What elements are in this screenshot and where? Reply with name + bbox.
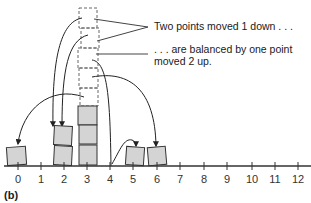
box-pos-2-bottom <box>53 146 72 166</box>
dashed-box-2 <box>81 28 99 48</box>
tick-label-6: 6 <box>154 173 160 185</box>
dashed-box-4 <box>79 68 98 88</box>
box-pos-3-top <box>78 106 97 125</box>
tick-label-3: 3 <box>84 173 90 185</box>
box-pos-3-mid <box>79 125 97 144</box>
arrow-to-0 <box>18 94 84 144</box>
tick-label-2: 2 <box>61 173 67 185</box>
tick-label-7: 7 <box>177 173 183 185</box>
balance-diagram: Two points moved 1 down . . . . . . are … <box>0 0 311 203</box>
arrow-box4-to-6 <box>92 76 156 146</box>
tick-label-0: 0 <box>15 173 21 185</box>
number-line: 0 1 2 3 4 5 6 7 8 9 10 11 12 <box>4 162 311 185</box>
tick-label-12: 12 <box>292 173 304 185</box>
box-pos-5 <box>125 146 144 165</box>
tick-label-10: 10 <box>246 173 258 185</box>
tick-label-4: 4 <box>107 173 113 185</box>
dashed-original-boxes <box>78 8 99 106</box>
tick-label-1: 1 <box>38 173 44 185</box>
annotation-two-points: Two points moved 1 down . . . <box>154 20 293 32</box>
panel-label: (b) <box>4 189 18 201</box>
leader-lines <box>94 19 148 54</box>
dashed-box-3 <box>78 48 98 68</box>
tick-label-5: 5 <box>130 173 136 185</box>
box-pos-3-bottom <box>79 145 97 165</box>
annotation-moved-up: moved 2 up. <box>154 55 212 67</box>
tick-label-8: 8 <box>201 173 207 185</box>
axis-tick-labels: 0 1 2 3 4 5 6 7 8 9 10 11 12 <box>15 173 304 185</box>
tick-label-11: 11 <box>269 173 280 185</box>
tick-label-9: 9 <box>224 173 230 185</box>
annotation-balanced: . . . are balanced by one point <box>154 43 292 55</box>
box-pos-0 <box>6 146 26 165</box>
final-boxes <box>6 106 166 166</box>
box-pos-2-top <box>53 126 72 146</box>
